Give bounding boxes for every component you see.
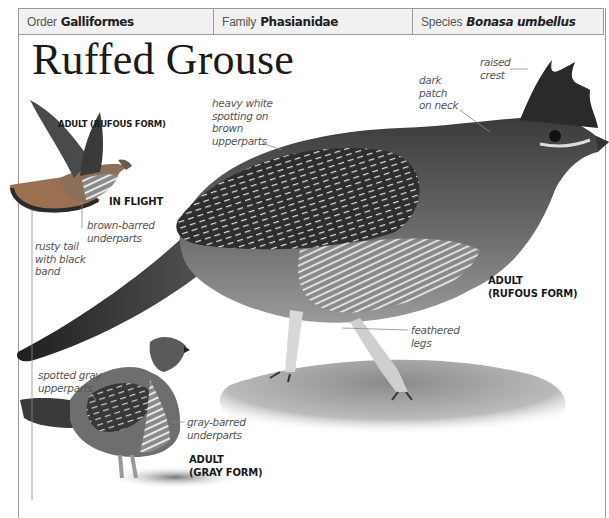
caption-line: (GRAY FORM) [189,466,262,479]
note-line: crest [480,69,510,82]
note-line: gray-barred [187,416,246,429]
note-line: underparts [187,429,246,442]
gray-upperparts-note: spotted gray upperparts [38,369,101,394]
note-line: brown [212,122,273,135]
note-line: band [35,265,86,278]
note-line: spotting on [212,110,273,123]
rufous-caption: ADULT (RUFOUS FORM) [488,274,577,300]
caption-line: ADULT [488,274,577,287]
flight-form-caption: ADULT (RUFOUS FORM) [58,118,166,131]
note-line: legs [411,337,460,350]
note-line: spotted gray [38,369,101,382]
note-line: dark [419,74,458,87]
note-line: feathered [411,324,460,337]
rufous-legs-note: feathered legs [411,324,460,349]
note-line: with black [35,253,86,266]
gray-caption: ADULT (GRAY FORM) [189,453,262,479]
note-line: on neck [419,99,458,112]
gray-underparts-note: gray-barred underparts [187,416,246,441]
flight-pose-caption: IN FLIGHT [109,195,163,208]
note-line: upperparts [38,382,101,395]
flight-underparts-note: brown-barred underparts [87,219,155,244]
caption-line: (RUFOUS FORM) [488,287,577,300]
note-line: underparts [87,232,155,245]
caption-line: ADULT [189,453,262,466]
note-line: heavy white [212,97,273,110]
rufous-upperparts-note: heavy white spotting on brown upperparts [212,97,273,147]
rufous-crest-note: raised crest [480,56,510,81]
rufous-neck-note: dark patch on neck [419,74,458,112]
flight-tail-note: rusty tail with black band [35,240,86,278]
note-line: patch [419,87,458,100]
note-line: brown-barred [87,219,155,232]
note-line: upperparts [212,135,273,148]
note-line: rusty tail [35,240,86,253]
note-line: raised [480,56,510,69]
